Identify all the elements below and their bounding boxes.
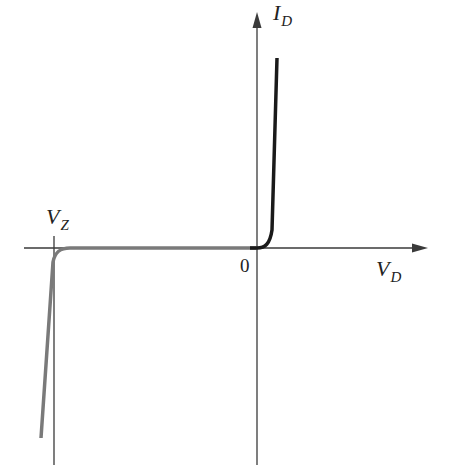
reverse-bias-curve <box>41 248 257 438</box>
x-axis-arrow-icon <box>412 244 428 253</box>
y-axis-arrow-icon <box>253 12 262 28</box>
forward-bias-curve <box>250 58 277 248</box>
origin-label: 0 <box>240 256 250 275</box>
zener-voltage-label: VZ <box>46 206 69 228</box>
y-axis-label: ID <box>273 2 292 24</box>
zener-iv-diagram: ID VD 0 VZ <box>0 0 456 465</box>
x-axis-label: VD <box>376 258 401 280</box>
